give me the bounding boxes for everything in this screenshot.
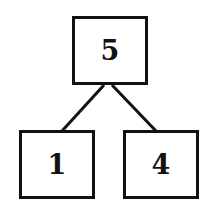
connector-right xyxy=(112,85,156,131)
connector-left xyxy=(62,85,104,131)
left-child-box: 1 xyxy=(19,130,95,199)
left-child-value: 1 xyxy=(48,149,67,180)
right-child-box: 4 xyxy=(123,130,199,199)
root-node-box: 5 xyxy=(72,16,148,85)
right-child-value: 4 xyxy=(152,149,171,180)
root-node-value: 5 xyxy=(101,35,120,66)
